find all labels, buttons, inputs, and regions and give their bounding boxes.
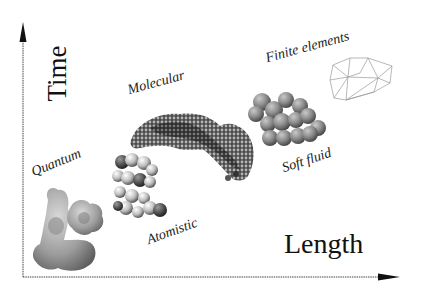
quantum-illustration <box>33 188 103 271</box>
y-axis-title: Time <box>42 39 73 109</box>
soft-fluid-illustration <box>248 92 326 146</box>
x-axis-title: Length <box>284 228 363 260</box>
x-axis-arrow-icon <box>378 274 400 281</box>
y-axis-arrow-icon <box>20 22 27 42</box>
atomistic-illustration <box>112 153 167 218</box>
y-axis <box>20 22 27 277</box>
multiscale-diagram: Time Length Quantum Atomistic Molecular … <box>0 0 423 298</box>
x-axis <box>23 274 400 281</box>
finite-elements-illustration <box>330 58 392 100</box>
